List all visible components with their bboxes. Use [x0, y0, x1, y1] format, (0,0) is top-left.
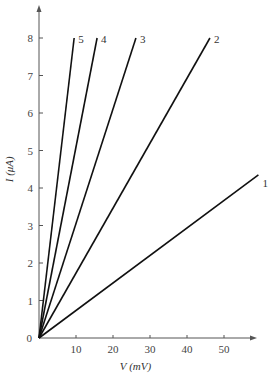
x-axis-arrow-icon: [250, 336, 257, 341]
y-tick-label: 3: [28, 220, 34, 232]
x-tick-label: 50: [219, 343, 231, 355]
y-tick-label: 1: [28, 295, 34, 307]
axes: [37, 5, 258, 341]
x-axis-title: V (mV): [120, 360, 152, 373]
series-label-3: 3: [140, 33, 146, 45]
series-label-4: 4: [101, 33, 107, 45]
series-line-3: [39, 38, 136, 338]
y-tick-label: 8: [28, 32, 34, 44]
y-tick-label: 2: [28, 257, 34, 269]
x-tick-label: 20: [108, 343, 120, 355]
y-tick-label: 6: [28, 107, 34, 119]
series-label-5: 5: [78, 33, 84, 45]
series-line-5: [39, 38, 74, 338]
series-lines: [39, 38, 258, 338]
x-tick-label: 40: [182, 343, 194, 355]
y-axis-arrow-icon: [37, 5, 42, 12]
y-axis-title: I (μA): [3, 156, 16, 183]
x-tick-label: 30: [145, 343, 157, 355]
series-line-1: [39, 175, 258, 338]
origin-label: 0: [27, 332, 33, 344]
y-tick-label: 5: [28, 145, 34, 157]
y-tick-label: 4: [28, 182, 34, 194]
series-line-2: [39, 38, 210, 338]
series-line-4: [39, 38, 97, 338]
iv-chart: 102030405012345678012345V (mV)I (μA): [0, 0, 272, 379]
series-label-2: 2: [214, 33, 220, 45]
y-tick-label: 7: [28, 70, 34, 82]
x-tick-label: 10: [71, 343, 83, 355]
series-label-1: 1: [262, 177, 268, 189]
